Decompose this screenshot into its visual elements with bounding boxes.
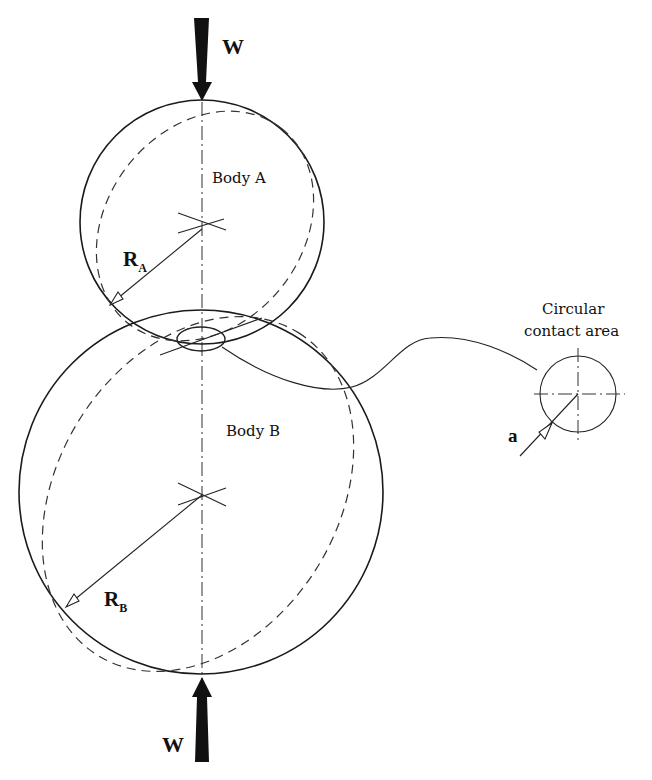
body-b-radius-line	[68, 495, 202, 605]
body-b-radius-arrowhead-icon	[66, 594, 79, 607]
contact-area-title-line1: Circular	[542, 300, 605, 318]
bottom-load-label: W	[162, 732, 184, 757]
contact-radius-label: a	[508, 425, 518, 446]
body-a-radius-subscript: A	[138, 261, 147, 275]
body-a	[51, 68, 358, 384]
body-b-label: Body B	[226, 422, 280, 440]
contact-radius-arrowhead-icon	[539, 423, 552, 439]
top-load-label: W	[222, 34, 244, 59]
contact-leader-line	[222, 337, 537, 389]
bottom-load-arrow-icon	[192, 677, 212, 762]
body-a-great-circle	[51, 68, 358, 384]
body-b-radius-symbol: R	[104, 587, 120, 611]
contact-area-title-line2: contact area	[524, 322, 619, 340]
body-b-radius-label: RB	[104, 587, 127, 615]
body-a-radius-symbol: R	[123, 247, 139, 271]
body-b	[0, 259, 417, 730]
bottom-load: W	[162, 677, 212, 762]
body-b-outline	[19, 310, 383, 674]
body-a-radius-arrowhead-icon	[110, 292, 123, 305]
body-a-radius-label: RA	[123, 247, 147, 275]
body-a-label: Body A	[212, 169, 266, 187]
top-load-arrow-icon	[192, 18, 212, 101]
contact-detail: Circular contact area a	[508, 300, 625, 456]
body-b-radius-subscript: B	[119, 601, 127, 615]
sphere-contact-diagram: Circular contact area a W W Body A Body …	[0, 0, 652, 780]
top-load: W	[192, 18, 244, 101]
